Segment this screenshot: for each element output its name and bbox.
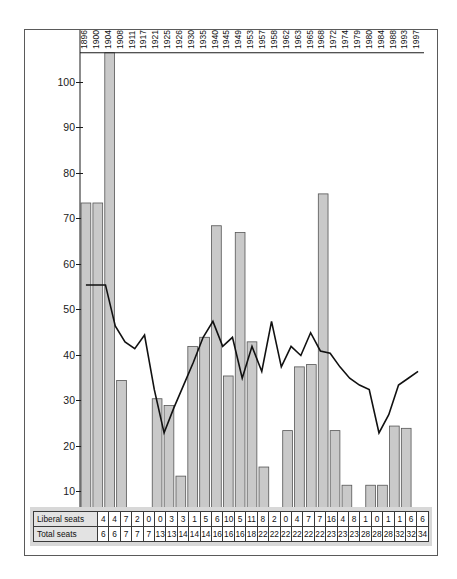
bar — [247, 342, 257, 508]
table-cell: 6 — [406, 512, 417, 526]
bar — [330, 431, 340, 508]
table-cell: 14 — [178, 527, 189, 541]
y-tick-label: 50 — [63, 303, 75, 315]
x-tick-label: 1988 — [388, 30, 398, 49]
bar — [389, 426, 399, 508]
x-tick-label: 1965 — [305, 30, 315, 49]
bar — [117, 381, 127, 508]
table-cell: 22 — [269, 527, 280, 541]
table-cell: 32 — [406, 527, 417, 541]
x-tick-label: 1980 — [364, 30, 374, 49]
x-tick-label: 1993 — [399, 30, 409, 49]
bar — [259, 467, 269, 508]
table-cell: 1 — [360, 512, 371, 526]
table-cell: 14 — [201, 527, 212, 541]
table-cell: 4 — [338, 512, 349, 526]
table-cell: 34 — [417, 527, 427, 541]
table-cell: 6 — [417, 512, 427, 526]
table-cell: 13 — [155, 527, 166, 541]
y-tick-label: 40 — [63, 349, 75, 361]
x-tick-label: 1940 — [210, 30, 220, 49]
table-cell: 7 — [121, 512, 132, 526]
bar — [176, 476, 186, 508]
table-cell: 4 — [98, 512, 109, 526]
table-cell: 5 — [201, 512, 212, 526]
bar — [105, 53, 115, 508]
plot-area: 1896190019041908191119171921192519261930… — [80, 30, 424, 508]
x-tick-label: 1972 — [328, 30, 338, 49]
table-cell: 28 — [372, 527, 383, 541]
x-tick-label: 1911 — [127, 30, 137, 48]
x-tick-label: 1896 — [79, 30, 89, 49]
x-tick-label: 1963 — [293, 30, 303, 49]
row-cells-liberal-seats: 44720033156105118204771648101166 — [98, 512, 428, 526]
data-table: Liberal seats 44720033156105118204771648… — [33, 511, 429, 542]
row-label-total-seats: Total seats — [34, 527, 98, 541]
table-cell: 7 — [121, 527, 132, 541]
table-cell: 22 — [315, 527, 326, 541]
x-tick-label: 1984 — [376, 30, 386, 49]
bar — [200, 337, 210, 508]
table-cell: 8 — [349, 512, 360, 526]
bar — [295, 367, 305, 508]
x-tick-label: 1974 — [340, 30, 350, 49]
table-cell: 28 — [360, 527, 371, 541]
table-row: Liberal seats 44720033156105118204771648… — [34, 512, 428, 527]
y-tick-label: 20 — [63, 440, 75, 452]
table-cell: 7 — [303, 512, 314, 526]
table-cell: 7 — [132, 527, 143, 541]
x-tick-label: 1958 — [269, 30, 279, 49]
table-cell: 6 — [98, 527, 109, 541]
bar — [81, 203, 91, 508]
x-tick-label: 1968 — [316, 30, 326, 49]
y-tick-label: 70 — [63, 212, 75, 224]
table-cell: 11 — [246, 512, 257, 526]
table-cell: 10 — [223, 512, 234, 526]
bar — [93, 203, 103, 508]
table-cell: 6 — [212, 512, 223, 526]
table-cell: 0 — [281, 512, 292, 526]
bar — [378, 485, 388, 508]
table-cell: 16 — [235, 527, 246, 541]
table-cell: 2 — [269, 512, 280, 526]
chart-figure: 100908070605040302010 189619001904190819… — [0, 0, 457, 579]
x-tick-label: 1930 — [186, 30, 196, 49]
table-cell: 4 — [109, 512, 120, 526]
table-cell: 18 — [246, 527, 257, 541]
x-tick-label: 1921 — [150, 30, 160, 49]
x-tick-label: 1997 — [411, 30, 421, 49]
bar — [366, 485, 376, 508]
table-cell: 23 — [349, 527, 360, 541]
table-cell: 16 — [212, 527, 223, 541]
table-cell: 0 — [155, 512, 166, 526]
table-cell: 16 — [223, 527, 234, 541]
bar — [401, 428, 411, 508]
x-tick-label: 1945 — [221, 30, 231, 49]
table-cell: 32 — [395, 527, 406, 541]
x-tick-label: 1953 — [245, 30, 255, 49]
table-cell: 23 — [326, 527, 337, 541]
bar — [283, 431, 293, 508]
table-cell: 1 — [395, 512, 406, 526]
table-cell: 8 — [258, 512, 269, 526]
table-cell: 4 — [292, 512, 303, 526]
table-cell: 22 — [258, 527, 269, 541]
table-cell: 28 — [383, 527, 394, 541]
x-tick-label: 1949 — [233, 30, 243, 49]
table-cell: 0 — [144, 512, 155, 526]
bar — [223, 376, 233, 508]
y-tick-label: 60 — [63, 258, 75, 270]
bar — [342, 485, 352, 508]
plot-inner: 1896190019041908191119171921192519261930… — [80, 30, 424, 508]
x-tick-label: 1957 — [257, 30, 267, 49]
table-cell: 22 — [303, 527, 314, 541]
table-cell: 6 — [109, 527, 120, 541]
x-tick-label: 1979 — [352, 30, 362, 49]
y-axis-labels: 100908070605040302010 — [24, 29, 84, 556]
table-cell: 23 — [338, 527, 349, 541]
table-cell: 7 — [315, 512, 326, 526]
table-cell: 1 — [189, 512, 200, 526]
x-tick-label: 1962 — [281, 30, 291, 49]
table-cell: 3 — [178, 512, 189, 526]
table-cell: 2 — [132, 512, 143, 526]
